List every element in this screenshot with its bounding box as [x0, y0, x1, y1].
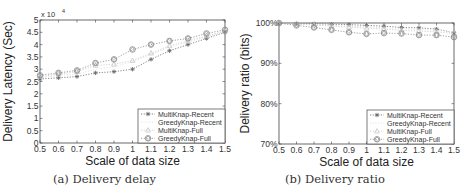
y-multiplier-label: x 10 — [41, 10, 55, 19]
y-tick-label: 2 — [34, 89, 39, 99]
legend-entry: GreedyKnap-Recent — [387, 120, 451, 128]
x-tick-label: 1.5 — [219, 144, 231, 154]
asterisk-marker — [167, 49, 171, 53]
x-tick-label: 1.1 — [145, 144, 157, 154]
y-tick-label: 2.5 — [27, 77, 39, 87]
y-tick-label: 100% — [256, 18, 278, 28]
x-axis-label: Scale of data size — [85, 154, 180, 168]
x-tick-label: 0.7 — [71, 144, 83, 154]
delivery-ratio-plot: 0.50.60.70.80.911.11.21.31.41.570%80%90%… — [237, 0, 474, 172]
legend-entry: GreedyKnap-Full — [387, 136, 440, 144]
y-tick-label: 70% — [260, 139, 277, 149]
x-tick-label: 1 — [130, 144, 135, 154]
triangle-marker — [364, 26, 369, 30]
asterisk-marker — [93, 71, 97, 75]
y-tick-label: 0.5 — [27, 126, 39, 136]
y-tick-label: 5 — [34, 15, 39, 25]
x-tick-label: 0.9 — [343, 145, 355, 155]
y-tick-label: 1.5 — [27, 101, 39, 111]
diamond-marker — [130, 47, 135, 52]
y-tick-label: 4.5 — [27, 27, 39, 37]
asterisk-marker — [130, 67, 134, 71]
x-tick-label: 1.2 — [164, 144, 176, 154]
x-tick-label: 1.5 — [448, 145, 460, 155]
y-multiplier-exponent: 4 — [62, 8, 65, 14]
legend-entry: MultiKnap-Recent — [158, 111, 214, 119]
series-multiknap-recent — [38, 30, 227, 81]
x-tick-label: 1.3 — [413, 145, 425, 155]
legend-entry: GreedyKnap-Recent — [158, 119, 222, 127]
triangle-marker — [130, 58, 135, 62]
legend-entry: MultiKnap-Recent — [387, 112, 443, 120]
legend-entry: MultiKnap-Full — [387, 128, 432, 136]
delivery-ratio-caption: (b) Delivery ratio — [285, 172, 385, 186]
x-tick-label: 1.2 — [396, 145, 408, 155]
x-tick-label: 0.8 — [90, 144, 102, 154]
y-tick-label: 1 — [34, 113, 39, 123]
y-axis-label: Delivery Latency (Sec) — [1, 21, 15, 142]
x-tick-label: 1 — [364, 145, 369, 155]
x-tick-label: 1.1 — [378, 145, 390, 155]
legend-entry: GreedyKnap-Full — [158, 135, 211, 143]
x-axis-label: Scale of data size — [319, 155, 414, 169]
asterisk-marker — [146, 112, 150, 116]
y-tick-label: 0 — [34, 138, 39, 148]
x-tick-label: 1.4 — [431, 145, 443, 155]
y-tick-label: 80% — [260, 99, 277, 109]
x-tick-label: 0.6 — [291, 145, 303, 155]
delivery-delay-caption: (a) Delivery delay — [53, 172, 156, 186]
x-tick-label: 0.9 — [108, 144, 120, 154]
delivery-delay-chart: 0.50.60.70.80.911.11.21.31.41.500.511.52… — [0, 0, 237, 196]
y-tick-label: 3 — [34, 64, 39, 74]
x-tick-label: 1.3 — [182, 144, 194, 154]
legend-entry: MultiKnap-Full — [158, 127, 203, 135]
x-tick-label: 1.4 — [201, 144, 213, 154]
x-tick-label: 0.6 — [53, 144, 65, 154]
y-tick-label: 3.5 — [27, 52, 39, 62]
legend: MultiKnap-RecentGreedyKnap-RecentMultiKn… — [367, 110, 454, 144]
delivery-ratio-chart: 0.50.60.70.80.911.11.21.31.41.570%80%90%… — [237, 0, 474, 196]
asterisk-marker — [112, 69, 116, 73]
asterisk-marker — [75, 74, 79, 78]
legend: MultiKnap-RecentGreedyKnap-RecentMultiKn… — [138, 109, 225, 143]
y-axis-label: Delivery ratio (bits) — [238, 33, 252, 133]
asterisk-marker — [149, 57, 153, 61]
x-tick-label: 0.8 — [326, 145, 338, 155]
y-tick-label: 4 — [34, 40, 39, 50]
y-tick-label: 90% — [260, 58, 277, 68]
delivery-delay-plot: 0.50.60.70.80.911.11.21.31.41.500.511.52… — [0, 0, 237, 172]
x-tick-label: 0.7 — [308, 145, 320, 155]
